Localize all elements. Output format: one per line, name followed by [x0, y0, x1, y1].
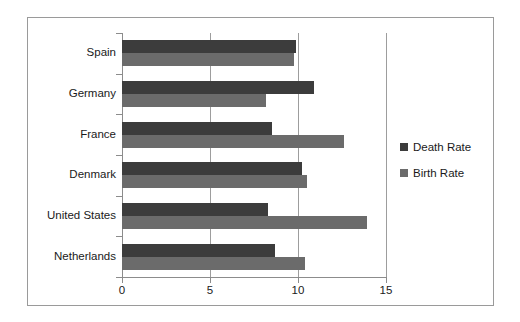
legend-item-birth-rate[interactable]: Birth Rate	[400, 166, 486, 180]
bar-death-rate-germany	[122, 81, 314, 94]
chart-legend: Death RateBirth Rate	[400, 140, 486, 192]
x-axis-tick-10	[298, 277, 299, 283]
bar-birth-rate-united-states	[122, 216, 367, 229]
bar-death-rate-denmark	[122, 162, 302, 175]
category-axis-labels: SpainGermanyFranceDenmarkUnited StatesNe…	[6, 33, 116, 277]
x-axis-tick-label-0: 0	[102, 284, 142, 296]
y-axis-tick-2	[116, 114, 122, 115]
y-axis-tick-3	[116, 155, 122, 156]
legend-label: Birth Rate	[413, 167, 464, 179]
category-label-spain: Spain	[8, 46, 116, 59]
x-axis-tick-label-5: 5	[190, 284, 230, 296]
category-label-france: France	[8, 128, 116, 141]
gridline-10	[298, 33, 299, 277]
y-axis-tick-1	[116, 74, 122, 75]
y-axis-tick-5	[116, 236, 122, 237]
bar-birth-rate-spain	[122, 53, 294, 66]
legend-item-death-rate[interactable]: Death Rate	[400, 140, 486, 154]
plot-area	[122, 33, 386, 277]
bar-chart: SpainGermanyFranceDenmarkUnited StatesNe…	[0, 0, 520, 322]
x-axis-tick-0	[122, 277, 123, 283]
bar-death-rate-spain	[122, 40, 296, 53]
bar-birth-rate-denmark	[122, 175, 307, 188]
x-axis-tick-label-15: 15	[366, 284, 406, 296]
category-label-netherlands: Netherlands	[8, 250, 116, 263]
gridline-15	[386, 33, 387, 277]
legend-swatch-icon	[400, 169, 408, 177]
gridline-5	[210, 33, 211, 277]
bar-death-rate-netherlands	[122, 244, 275, 257]
legend-swatch-icon	[400, 143, 408, 151]
category-label-denmark: Denmark	[8, 168, 116, 181]
bar-death-rate-france	[122, 122, 272, 135]
x-axis-tick-5	[210, 277, 211, 283]
bar-birth-rate-netherlands	[122, 257, 305, 270]
category-label-germany: Germany	[8, 87, 116, 100]
x-axis-tick-label-10: 10	[278, 284, 318, 296]
x-axis-line	[122, 277, 387, 278]
x-axis-tick-15	[386, 277, 387, 283]
legend-label: Death Rate	[413, 141, 471, 153]
y-axis-tick-4	[116, 196, 122, 197]
y-axis-tick-end	[116, 277, 122, 278]
category-label-united-states: United States	[8, 209, 116, 222]
bar-birth-rate-germany	[122, 94, 266, 107]
bar-birth-rate-france	[122, 135, 344, 148]
bar-death-rate-united-states	[122, 203, 268, 216]
y-axis-tick-0	[116, 33, 122, 34]
